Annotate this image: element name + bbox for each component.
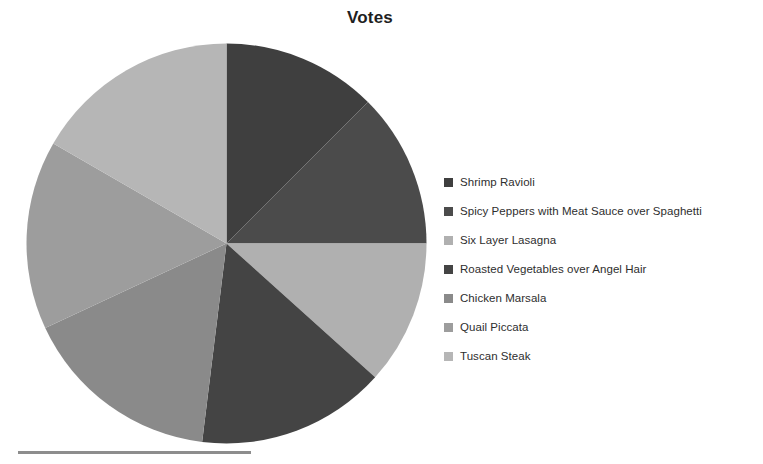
legend-item-label: Quail Piccata: [460, 321, 528, 334]
pie-svg: Shrimp RavioliSpicy Peppers with Meat Sa…: [26, 43, 427, 444]
legend-item[interactable]: Shrimp Ravioli: [444, 168, 759, 197]
legend-item[interactable]: Quail Piccata: [444, 313, 759, 342]
legend-item[interactable]: Tuscan Steak: [444, 342, 759, 371]
legend-swatch-icon: [444, 323, 453, 332]
legend-item-label: Tuscan Steak: [460, 350, 531, 363]
legend-swatch-icon: [444, 294, 453, 303]
bottom-divider-rule: [18, 451, 251, 454]
legend-item-label: Chicken Marsala: [460, 292, 546, 305]
pie-chart: Shrimp RavioliSpicy Peppers with Meat Sa…: [26, 43, 427, 444]
legend-item-label: Roasted Vegetables over Angel Hair: [460, 263, 646, 276]
legend-swatch-icon: [444, 265, 453, 274]
legend-item[interactable]: Spicy Peppers with Meat Sauce over Spagh…: [444, 197, 759, 226]
legend-swatch-icon: [444, 352, 453, 361]
legend-swatch-icon: [444, 236, 453, 245]
chart-legend: Shrimp RavioliSpicy Peppers with Meat Sa…: [444, 168, 759, 371]
legend-item-label: Spicy Peppers with Meat Sauce over Spagh…: [460, 205, 702, 218]
chart-container: Votes Shrimp RavioliSpicy Peppers with M…: [0, 0, 763, 464]
legend-swatch-icon: [444, 207, 453, 216]
legend-swatch-icon: [444, 178, 453, 187]
legend-item-label: Shrimp Ravioli: [460, 176, 535, 189]
legend-item[interactable]: Six Layer Lasagna: [444, 226, 759, 255]
legend-item-label: Six Layer Lasagna: [460, 234, 556, 247]
legend-item[interactable]: Roasted Vegetables over Angel Hair: [444, 255, 759, 284]
chart-title: Votes: [250, 8, 490, 28]
pie-slice-group: Shrimp RavioliSpicy Peppers with Meat Sa…: [26, 44, 426, 444]
legend-item[interactable]: Chicken Marsala: [444, 284, 759, 313]
